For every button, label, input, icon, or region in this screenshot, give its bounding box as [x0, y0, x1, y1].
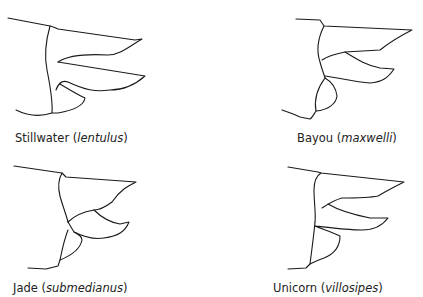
- caption-stillwater: Stillwater (lentulus): [15, 131, 128, 145]
- drawing-jade: [0, 160, 150, 275]
- paren-open: (: [317, 281, 325, 295]
- common-name: Bayou: [297, 131, 333, 145]
- common-name: Jade: [13, 281, 38, 295]
- paren-close: ): [123, 131, 128, 145]
- common-name: Stillwater: [15, 131, 69, 145]
- line-drawing-icon: [270, 10, 423, 125]
- caption-bayou: Bayou (maxwelli): [297, 131, 397, 145]
- caption-jade: Jade (submedianus): [13, 281, 127, 295]
- line-drawing-icon: [0, 10, 150, 125]
- caption-unicorn: Unicorn (villosipes): [273, 281, 383, 295]
- drawing-stillwater: [0, 10, 150, 125]
- common-name: Unicorn: [273, 281, 317, 295]
- paren-close: ): [392, 131, 397, 145]
- paren-open: (: [38, 281, 46, 295]
- paren-close: ): [123, 281, 128, 295]
- drawing-bayou: [270, 10, 423, 125]
- species-name: submedianus: [46, 281, 123, 295]
- paren-close: ): [378, 281, 383, 295]
- species-name: maxwelli: [341, 131, 392, 145]
- species-name: villosipes: [325, 281, 378, 295]
- drawing-unicorn: [270, 160, 423, 275]
- paren-open: (: [333, 131, 341, 145]
- line-drawing-icon: [270, 160, 423, 275]
- line-drawing-icon: [0, 160, 150, 275]
- species-name: lentulus: [77, 131, 123, 145]
